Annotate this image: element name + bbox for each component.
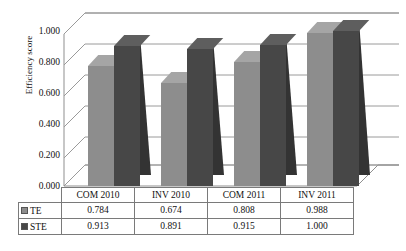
bar-front-face (161, 83, 187, 186)
bar-front-face (260, 45, 286, 186)
bar-front-face (234, 62, 260, 186)
table-col-header-com-2010: COM 2010 (62, 188, 135, 203)
bar-side-face (359, 20, 370, 175)
bar-side-face (140, 35, 151, 175)
table-col-header-inv-2010: INV 2010 (135, 188, 208, 203)
bar-front-face (307, 33, 333, 186)
plot-area (0, 0, 406, 196)
legend-item-te: TE (19, 203, 62, 219)
bar-te-inv-2010 (161, 83, 187, 186)
table-cell-ste-com-2011: 0.915 (208, 218, 281, 234)
legend-label-te: TE (30, 206, 42, 216)
table-cell-te-inv-2011: 0.988 (281, 203, 354, 219)
bar-te-com-2011 (234, 62, 260, 186)
bar-ste-inv-2011 (333, 31, 359, 186)
bar-ste-com-2010 (114, 46, 140, 186)
bar-ste-com-2011 (260, 45, 286, 186)
legend-swatch-te-icon (21, 207, 28, 214)
table-cell-ste-inv-2010: 0.891 (135, 218, 208, 234)
table-row: TE 0.784 0.674 0.808 0.988 (19, 203, 354, 219)
table-cell-te-com-2011: 0.808 (208, 203, 281, 219)
bar-side-face (286, 34, 297, 175)
bar-front-face (333, 31, 359, 186)
table-cell-ste-inv-2011: 1.000 (281, 218, 354, 234)
table-header-row: COM 2010 INV 2010 COM 2011 INV 2011 (19, 188, 354, 203)
bar-front-face (114, 46, 140, 186)
bar-te-inv-2011 (307, 33, 333, 186)
legend-item-ste: STE (19, 218, 62, 234)
bar-front-face (187, 49, 213, 186)
chart-data-table: COM 2010 INV 2010 COM 2011 INV 2011 TE 0… (18, 187, 354, 235)
table-cell-ste-com-2010: 0.913 (62, 218, 135, 234)
chart-figure: Efficiency score 1.000 0.800 0.600 0.400… (0, 0, 406, 251)
table-row: STE 0.913 0.891 0.915 1.000 (19, 218, 354, 234)
table-cell-te-com-2010: 0.784 (62, 203, 135, 219)
table-cell-te-inv-2010: 0.674 (135, 203, 208, 219)
legend-swatch-ste-icon (21, 223, 28, 230)
bar-front-face (88, 66, 114, 186)
bar-te-com-2010 (88, 66, 114, 186)
table-col-header-com-2011: COM 2011 (208, 188, 281, 203)
bar-ste-inv-2010 (187, 49, 213, 186)
table-corner-blank (19, 188, 62, 203)
legend-label-ste: STE (30, 222, 47, 232)
bar-side-face (213, 38, 224, 175)
table-col-header-inv-2011: INV 2011 (281, 188, 354, 203)
